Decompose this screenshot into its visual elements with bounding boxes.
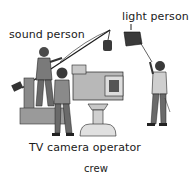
studio-light-icon <box>124 24 152 62</box>
illustration-canvas: sound person light person TV camera oper… <box>0 0 191 173</box>
light-person-figure <box>147 61 170 126</box>
sound-person-label: sound person <box>9 29 85 40</box>
light-person-label: light person <box>122 11 189 22</box>
tv-camera-icon <box>72 65 123 136</box>
camera-operator-label: TV camera operator <box>29 142 141 153</box>
crew-label: crew <box>84 164 108 173</box>
camera-operator-figure <box>52 68 74 137</box>
